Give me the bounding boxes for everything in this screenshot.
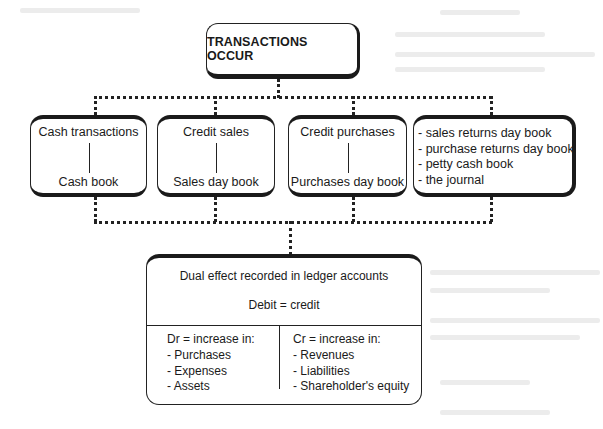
ledger-box: Dual effect recorded in ledger accounts … — [146, 254, 422, 405]
list-item: - petty cash book — [418, 157, 572, 173]
list-item: - Shareholder's equity — [293, 379, 409, 395]
ledger-title: Dual effect recorded in ledger accounts — [147, 269, 421, 283]
list-item: - Liabilities — [293, 364, 409, 380]
list-item: - Expenses — [167, 364, 255, 380]
rise-2 — [214, 197, 217, 222]
rise-4 — [490, 197, 493, 222]
debit-heading: Dr = increase in: — [167, 332, 255, 348]
purchases-day-book-label: Purchases day book — [289, 175, 406, 189]
credit-column: Cr = increase in: - Revenues - Liabiliti… — [293, 332, 409, 395]
top-branch-line — [94, 96, 492, 99]
divider — [146, 325, 421, 326]
list-item: - the journal — [418, 173, 572, 189]
drop-2 — [214, 96, 217, 115]
drop-4 — [490, 96, 493, 115]
list-item: - sales returns day book — [418, 126, 572, 142]
credit-purchases-label: Credit purchases — [289, 125, 406, 139]
other-books-box: - sales returns day book - purchase retu… — [413, 115, 576, 197]
sales-day-book-label: Sales day book — [158, 175, 274, 189]
cash-box: Cash transactions Cash book — [30, 115, 147, 197]
rise-1 — [94, 197, 97, 222]
link-line — [348, 143, 349, 173]
list-item: - Purchases — [167, 348, 255, 364]
credit-heading: Cr = increase in: — [293, 332, 409, 348]
root-label: TRANSACTIONS OCCUR — [207, 35, 357, 63]
link-line — [89, 143, 90, 173]
ledger-equation: Debit = credit — [147, 298, 421, 312]
list-item: - Assets — [167, 379, 255, 395]
drop-3 — [352, 96, 355, 115]
list-item: - Revenues — [293, 348, 409, 364]
other-books-list: - sales returns day book - purchase retu… — [414, 119, 572, 188]
column-divider — [279, 325, 280, 389]
ledger-stem — [289, 221, 292, 255]
cash-book-label: Cash book — [31, 175, 146, 189]
credit-purchases-box: Credit purchases Purchases day book — [288, 115, 407, 197]
credit-sales-label: Credit sales — [158, 125, 274, 139]
list-item: - purchase returns day book — [418, 142, 572, 158]
debit-column: Dr = increase in: - Purchases - Expenses… — [167, 332, 255, 395]
bottom-merge-line — [94, 221, 492, 224]
drop-1 — [94, 96, 97, 115]
cash-transactions-label: Cash transactions — [31, 125, 146, 139]
transactions-occur-box: TRANSACTIONS OCCUR — [206, 23, 360, 79]
link-line — [216, 143, 217, 173]
rise-3 — [352, 197, 355, 222]
credit-sales-box: Credit sales Sales day book — [157, 115, 275, 197]
